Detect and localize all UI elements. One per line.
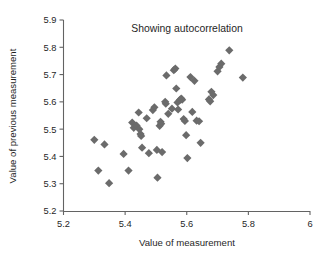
y-tick-label: 5.8 [44, 43, 57, 53]
x-ticklabel-group: 5.25.45.65.86 [57, 219, 313, 229]
data-point [119, 150, 127, 158]
data-point [239, 73, 247, 81]
data-point [162, 71, 170, 79]
y-tick-label: 5.4 [44, 152, 57, 162]
y-tick-group [60, 20, 64, 211]
data-point [225, 46, 233, 54]
data-point [100, 140, 108, 148]
x-tick-label: 6 [307, 219, 312, 229]
y-tick-label: 5.5 [44, 125, 57, 135]
data-point [94, 167, 102, 175]
x-axis: 5.25.45.65.86 [57, 211, 313, 229]
data-point [172, 84, 180, 92]
data-point [90, 136, 98, 144]
chart-svg: 5.25.35.45.55.65.75.85.9 5.25.45.65.86 S… [0, 0, 326, 260]
y-tick-label: 5.9 [44, 15, 57, 25]
y-tick-label: 5.7 [44, 70, 57, 80]
data-point [183, 154, 191, 162]
data-point [153, 174, 161, 182]
data-point-group [90, 46, 247, 187]
x-axis-title: Value of measurement [139, 237, 235, 248]
y-axis-title: Value of previous measurement [7, 48, 18, 183]
data-point [135, 108, 143, 116]
data-point [143, 114, 151, 122]
data-point [188, 108, 196, 116]
y-tick-label: 5.6 [44, 97, 57, 107]
y-axis: 5.25.35.45.55.65.75.85.9 [44, 15, 64, 216]
y-ticklabel-group: 5.25.35.45.55.65.75.85.9 [44, 15, 57, 216]
data-point [174, 105, 182, 113]
x-tick-label: 5.6 [180, 219, 193, 229]
x-tick-label: 5.4 [119, 219, 132, 229]
data-point [124, 167, 132, 175]
data-point [138, 144, 146, 152]
y-tick-label: 5.2 [44, 206, 57, 216]
chart-title: Showing autocorrelation [131, 23, 243, 34]
y-tick-label: 5.3 [44, 179, 57, 189]
x-tick-label: 5.8 [242, 219, 255, 229]
data-point [105, 179, 113, 187]
data-point [197, 139, 205, 147]
x-tick-label: 5.2 [57, 219, 70, 229]
data-point [182, 131, 190, 139]
data-point [145, 149, 153, 157]
scatter-chart-figure: 5.25.35.45.55.65.75.85.9 5.25.45.65.86 S… [0, 0, 326, 260]
